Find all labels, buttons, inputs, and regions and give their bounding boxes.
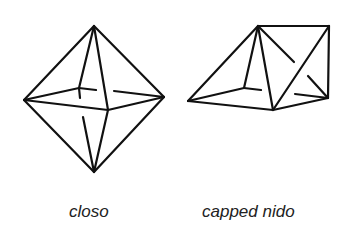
closo-octahedron bbox=[24, 26, 164, 172]
capped-nido-polyhedron bbox=[188, 26, 329, 110]
closo-label: closo bbox=[69, 202, 109, 222]
capped-nido-label: capped nido bbox=[202, 202, 295, 222]
polyhedra-diagram bbox=[0, 0, 352, 247]
